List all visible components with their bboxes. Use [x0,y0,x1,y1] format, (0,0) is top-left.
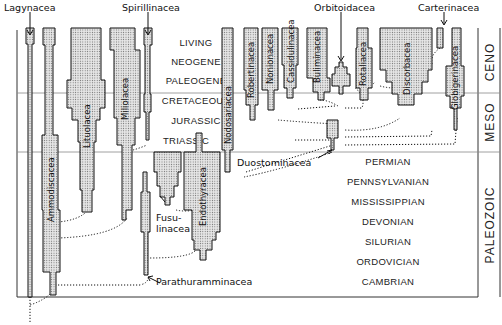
label-orbitoidacea: Orbitoidacea [314,2,375,13]
label-fusulinacea-line2: linacea [156,223,190,234]
period-pennsylvanian: PENNSYLVANIAN [347,176,429,187]
period-devonian: DEVONIAN [362,216,414,227]
spindle-spirillinacea [144,28,152,140]
period-living: LIVING [180,37,213,48]
spindle-duostominacea [327,120,338,150]
label-nonionacea: Nonionacea [265,34,275,84]
era-ceno: CENO [483,43,497,82]
period-cambrian: CAMBRIAN [362,276,415,287]
period-ordovician: ORDOVICIAN [356,256,419,267]
spindle-parathuramminacea [141,172,150,275]
label-miliolacea: Miliolacea [120,78,130,120]
label-lagynacea: Lagynacea [4,2,56,13]
label-endothyracea: Endothyracea [198,167,208,226]
period-cretaceous: CRETACEOUS [162,95,230,106]
period-paleogene: PALEOGENE [166,75,227,86]
label-globigerinacea: Globigerinacea [450,46,460,110]
spindle-orbitoidacea [332,62,350,94]
period-permian: PERMIAN [365,156,410,167]
label-buliminacea: Buliminacea [312,31,322,83]
spindle-carterinacea [437,28,443,48]
label-fusulinacea-line1: Fusu- [156,212,181,223]
label-discorbacea: Discorbacea [402,43,412,95]
label-robertinacea: Robertinacea [246,42,256,98]
era-paleozoic: PALEOZOIC [483,187,497,264]
period-silurian: SILURIAN [365,236,411,247]
period-neogene: NEOGENE [171,56,221,67]
label-duostominacea: Duostominacea [237,157,311,168]
period-jurassic: JURASSIC [171,115,220,126]
label-nodosariacea: Nodosariacea [223,86,233,144]
label-lituolacea: Lituolacea [82,104,92,148]
era-meso: MESO [483,102,497,141]
label-spirillinacea: Spirillinacea [122,2,180,13]
phylogeny-diagram: LIVING NEOGENE PALEOGENE CRETACEOUS JURA… [0,0,502,325]
era-labels: CENO MESO PALEOZOIC [483,43,497,264]
side-labels: Fusu- linacea Duostominacea Parathurammi… [156,157,311,287]
label-cassidulinacea: Cassidulinacea [286,19,296,83]
spindle-miliolacea [110,28,140,220]
spindle-lagynacea [26,28,34,297]
period-mississippian: MISSISSIPPIAN [351,196,425,207]
label-carterinacea: Carterinacea [418,2,479,13]
label-rotaliacea: Rotaliacea [358,42,368,86]
top-labels: Lagynacea Spirillinacea Orbitoidacea Car… [4,2,479,13]
label-ammodiscacea: Ammodiscacea [46,157,56,222]
spindle-fusulinacea [154,152,181,205]
label-parathuramminacea: Parathuramminacea [156,276,252,287]
